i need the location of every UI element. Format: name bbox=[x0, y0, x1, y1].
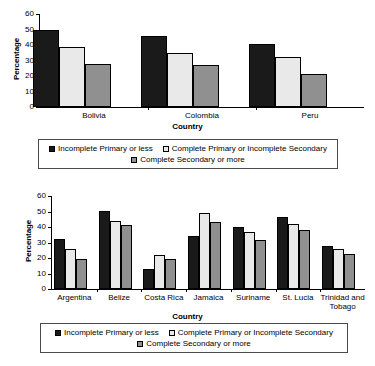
bar bbox=[210, 222, 221, 289]
legend-swatch-icon bbox=[49, 146, 55, 152]
x-tick bbox=[97, 289, 98, 292]
y-tick-label: 20 bbox=[37, 254, 46, 262]
bar bbox=[344, 254, 355, 289]
bar bbox=[299, 230, 310, 289]
bar bbox=[143, 269, 154, 289]
legend-swatch-icon bbox=[163, 146, 169, 152]
legend-item-0: Incomplete Primary or less bbox=[49, 143, 153, 154]
x-tick bbox=[148, 107, 149, 110]
bar bbox=[188, 236, 199, 289]
x-tick bbox=[231, 289, 232, 292]
bar bbox=[233, 227, 244, 289]
y-tick-label: 0 bbox=[42, 285, 46, 293]
chart-1-y-tick-labels: 60 50 40 30 20 10 0 bbox=[18, 0, 34, 105]
bar bbox=[85, 64, 111, 107]
y-tick-label: 60 bbox=[25, 10, 34, 18]
bar bbox=[193, 65, 219, 107]
bar bbox=[249, 44, 275, 107]
chart-2-y-tick-labels: 60 50 40 30 20 10 0 bbox=[30, 186, 46, 291]
chart-1-x-axis-title: Country bbox=[0, 122, 375, 131]
y-tick-label: 30 bbox=[37, 239, 46, 247]
legend-item-0: Incomplete Primary or less bbox=[55, 327, 159, 338]
legend-swatch-icon bbox=[131, 157, 137, 163]
y-tick-label: 60 bbox=[37, 192, 46, 200]
x-tick bbox=[276, 289, 277, 292]
x-tick bbox=[186, 289, 187, 292]
y-tick-label: 40 bbox=[37, 223, 46, 231]
x-tick-label: Colombia bbox=[142, 111, 262, 120]
legend-item-1: Complete Primary or Incomplete Secondary bbox=[163, 143, 327, 154]
x-tick-label: Bolivia bbox=[34, 111, 154, 120]
bar bbox=[322, 246, 333, 289]
bar bbox=[255, 240, 266, 289]
x-tick-label: Trinidad and Tobago bbox=[314, 293, 371, 311]
chart-1-x-axis-line bbox=[39, 107, 364, 108]
bar bbox=[288, 224, 299, 289]
legend-swatch-icon bbox=[55, 330, 61, 336]
bar bbox=[277, 217, 288, 289]
legend-label: Complete Secondary or more bbox=[140, 154, 245, 165]
x-tick-label: Peru bbox=[250, 111, 370, 120]
bar bbox=[33, 30, 59, 108]
y-tick-label: 50 bbox=[37, 208, 46, 216]
bar bbox=[167, 53, 193, 107]
legend-label: Complete Primary or Incomplete Secondary bbox=[172, 143, 327, 154]
bar bbox=[141, 36, 167, 107]
chart-2-x-axis-title: Country bbox=[0, 312, 375, 321]
bar bbox=[165, 259, 176, 289]
chart-2-x-axis-line bbox=[51, 289, 365, 290]
legend-swatch-icon bbox=[169, 330, 175, 336]
legend-label: Complete Secondary or more bbox=[146, 338, 251, 349]
bar bbox=[301, 74, 327, 107]
bar bbox=[65, 249, 76, 289]
bar bbox=[154, 255, 165, 289]
bar bbox=[99, 211, 110, 289]
bar bbox=[275, 57, 301, 107]
legend-label: Incomplete Primary or less bbox=[64, 327, 159, 338]
legend-item-2: Complete Secondary or more bbox=[131, 154, 245, 165]
legend-item-1: Complete Primary or Incomplete Secondary bbox=[169, 327, 333, 338]
bar bbox=[244, 232, 255, 289]
bar bbox=[59, 47, 85, 107]
bar bbox=[333, 249, 344, 289]
bar bbox=[54, 239, 65, 289]
legend-swatch-icon bbox=[137, 341, 143, 347]
chart-2-plot-area bbox=[52, 196, 365, 289]
chart-1-legend: Incomplete Primary or less Complete Prim… bbox=[38, 139, 338, 169]
x-tick bbox=[320, 289, 321, 292]
bar bbox=[76, 259, 87, 289]
bar bbox=[121, 225, 132, 289]
x-tick bbox=[256, 107, 257, 110]
chart-2-legend: Incomplete Primary or less Complete Prim… bbox=[40, 323, 348, 353]
bar bbox=[199, 213, 210, 289]
legend-item-2: Complete Secondary or more bbox=[137, 338, 251, 349]
chart-1-plot-area bbox=[40, 14, 364, 107]
x-tick bbox=[141, 289, 142, 292]
bar bbox=[110, 221, 121, 289]
legend-label: Complete Primary or Incomplete Secondary bbox=[178, 327, 333, 338]
y-tick-label: 10 bbox=[37, 270, 46, 278]
legend-label: Incomplete Primary or less bbox=[58, 143, 153, 154]
figure-root: Percentage 60 50 40 30 20 10 0 Country B… bbox=[0, 0, 375, 366]
